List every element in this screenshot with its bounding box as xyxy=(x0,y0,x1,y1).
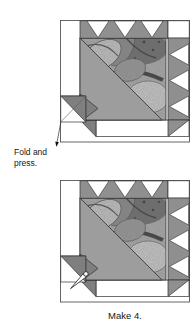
make-quantity-label: Make 4. xyxy=(60,310,190,323)
quilt-block-1 xyxy=(61,21,190,143)
quilt-block-2 xyxy=(61,181,190,303)
diagram-page: Fold and press. Make 4. xyxy=(0,0,194,332)
fold-press-label: Fold and press. xyxy=(14,147,58,170)
